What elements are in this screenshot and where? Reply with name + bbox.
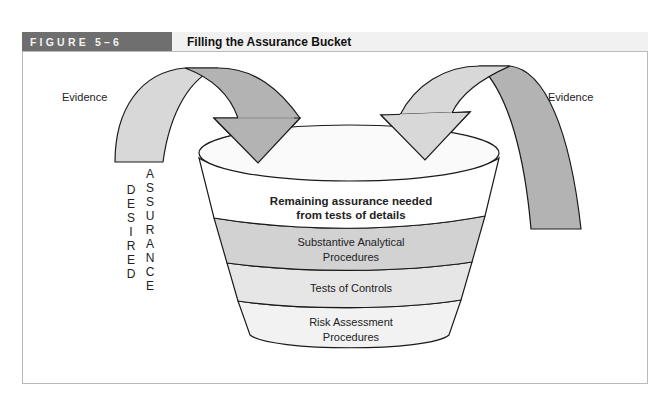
desired-vertical-label: D E S I R E D — [127, 183, 136, 281]
layer-label-remaining-2: from tests of details — [296, 209, 405, 221]
letter: S — [146, 181, 154, 195]
letter: S — [146, 195, 154, 209]
letter: C — [146, 265, 155, 279]
letter: E — [127, 197, 135, 211]
letter: I — [129, 225, 132, 239]
layer-label-remaining-1: Remaining assurance needed — [270, 195, 432, 207]
letter: A — [146, 167, 154, 181]
letter: E — [146, 279, 154, 293]
evidence-label-left: Evidence — [62, 91, 107, 103]
letter: D — [127, 267, 136, 281]
letter: U — [146, 209, 155, 223]
layer-label-substantive-1: Substantive Analytical — [297, 236, 404, 248]
layer-label-substantive-2: Procedures — [323, 251, 380, 263]
evidence-label-right: Evidence — [548, 91, 593, 103]
letter: N — [146, 251, 155, 265]
letter: R — [127, 239, 136, 253]
layer-label-risk-2: Procedures — [323, 331, 380, 343]
letter: R — [146, 223, 155, 237]
letter: D — [127, 183, 136, 197]
layer-label-risk-1: Risk Assessment — [309, 316, 393, 328]
layer-label-controls: Tests of Controls — [310, 282, 392, 294]
assurance-vertical-label: A S S U R A N C E — [146, 167, 155, 293]
letter: E — [127, 253, 135, 267]
letter: A — [146, 237, 154, 251]
assurance-bucket-diagram: Evidence Evidence D E S I R E D A S S U … — [0, 0, 672, 405]
letter: S — [127, 211, 135, 225]
